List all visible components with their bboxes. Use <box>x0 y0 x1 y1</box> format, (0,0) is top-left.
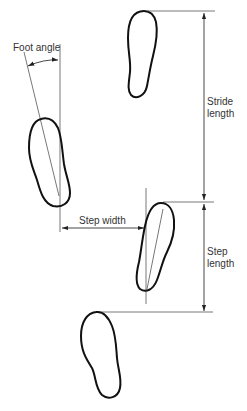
foot-angle-arc-arrow <box>28 60 58 66</box>
footprint-left-upper <box>29 118 70 206</box>
foot-angle-label: Foot angle <box>13 42 61 53</box>
gait-diagram: Stride length Step length Foot angle Ste… <box>0 0 247 411</box>
right-foot-axis-line <box>147 209 163 289</box>
foot-axis-line <box>24 52 59 196</box>
stride-length-label-line1: Stride <box>207 96 234 107</box>
step-width-label: Step width <box>79 215 126 226</box>
footprint-top-right <box>128 11 157 97</box>
step-length-label-line2: length <box>207 258 234 269</box>
step-length-label-line1: Step <box>207 246 228 257</box>
stride-length-label-line2: length <box>207 108 234 119</box>
footprint-left-lower <box>81 312 121 398</box>
